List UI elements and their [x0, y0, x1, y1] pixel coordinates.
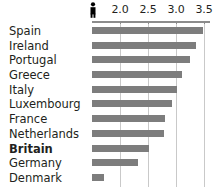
- row-label-france: France: [0, 112, 84, 127]
- row-label-denmark: Denmark: [0, 171, 84, 186]
- chart-row: Denmark: [0, 171, 224, 186]
- row-label-luxembourg: Luxembourg: [0, 97, 84, 112]
- chart-row: Germany: [0, 156, 224, 171]
- chart-row: Ireland: [0, 39, 224, 54]
- chart-row: Britain: [0, 142, 224, 157]
- tick-label-1: 2.5: [140, 3, 157, 16]
- bar-britain: [92, 145, 149, 152]
- bar-italy: [92, 86, 177, 93]
- row-label-netherlands: Netherlands: [0, 127, 84, 142]
- bar-ireland: [92, 42, 196, 49]
- row-label-greece: Greece: [0, 68, 84, 83]
- chart-row: France: [0, 112, 224, 127]
- person-icon: [89, 2, 97, 18]
- chart-plot-area: SpainIrelandPortugalGreeceItalyLuxembour…: [0, 24, 224, 192]
- bar-spain: [92, 27, 203, 34]
- bar-luxembourg: [92, 100, 172, 107]
- row-label-germany: Germany: [0, 156, 84, 171]
- row-label-spain: Spain: [0, 24, 84, 39]
- tick-label-2: 3.0: [168, 3, 185, 16]
- bar-netherlands: [92, 130, 164, 137]
- bar-greece: [92, 71, 182, 78]
- chart-row: Greece: [0, 68, 224, 83]
- row-label-italy: Italy: [0, 83, 84, 98]
- tick-label-3: 3.5: [196, 3, 213, 16]
- fertility-bar-chart: 2.0 2.5 3.0 3.5 SpainIrelandPortugalGree…: [0, 0, 224, 192]
- axis-line: [92, 21, 210, 23]
- chart-row: Luxembourg: [0, 97, 224, 112]
- bar-portugal: [92, 56, 190, 63]
- chart-row: Netherlands: [0, 127, 224, 142]
- bar-france: [92, 115, 165, 122]
- chart-row: Italy: [0, 83, 224, 98]
- chart-row: Portugal: [0, 53, 224, 68]
- bar-denmark: [92, 174, 104, 181]
- chart-rows: SpainIrelandPortugalGreeceItalyLuxembour…: [0, 24, 224, 186]
- chart-row: Spain: [0, 24, 224, 39]
- row-label-britain: Britain: [0, 142, 84, 157]
- row-label-ireland: Ireland: [0, 39, 84, 54]
- bar-germany: [92, 159, 138, 166]
- row-label-portugal: Portugal: [0, 53, 84, 68]
- tick-label-0: 2.0: [112, 3, 129, 16]
